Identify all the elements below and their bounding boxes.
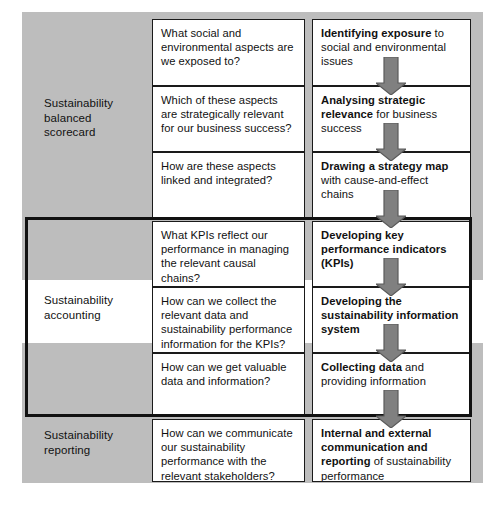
diagram-canvas: Sustainability balanced scorecard Sustai… <box>0 0 500 510</box>
row-label-line: scorecard <box>44 125 154 140</box>
row-label-line: accounting <box>44 308 154 323</box>
row-label-sustainability-reporting: Sustainability reporting <box>44 428 154 457</box>
row-label-sustainability-balanced-scorecard: Sustainability balanced scorecard <box>44 96 154 140</box>
answer-lead-text: Collecting data <box>321 361 402 373</box>
flow-arrow-down-icon <box>376 324 406 362</box>
answer-lead-text: Identifying exposure <box>321 27 431 39</box>
question-box-1: What social and environmental aspects ar… <box>152 19 305 86</box>
question-text: What social and environmental aspects ar… <box>161 27 293 67</box>
row-label-line: Sustainability <box>44 96 154 111</box>
question-box-5: How can we collect the relevant data and… <box>152 287 305 353</box>
question-text: What KPIs reflect our performance in man… <box>161 229 289 284</box>
question-box-2: Which of these aspects are strategically… <box>152 86 305 152</box>
question-text: How can we communicate our sustainabilit… <box>161 427 293 482</box>
flow-arrow-down-icon <box>376 390 406 428</box>
row-label-line: Sustainability <box>44 293 154 308</box>
question-box-6: How can we get valuable data and informa… <box>152 353 305 416</box>
question-text: Which of these aspects are strategically… <box>161 94 292 134</box>
row-label-sustainability-accounting: Sustainability accounting <box>44 293 154 322</box>
question-box-3: How are these aspects linked and integra… <box>152 152 305 218</box>
answer-rest-text: with cause-and-effect chains <box>321 174 428 200</box>
question-box-7: How can we communicate our sustainabilit… <box>152 419 305 482</box>
row-label-line: balanced <box>44 111 154 126</box>
flow-arrow-down-icon <box>376 258 406 296</box>
answer-box-7: Internal and external communication and … <box>312 419 471 482</box>
answer-lead-text: Drawing a strategy map <box>321 160 448 172</box>
question-text: How are these aspects linked and integra… <box>161 160 276 186</box>
flow-arrow-down-icon <box>376 190 406 228</box>
question-text: How can we get valuable data and informa… <box>161 361 287 387</box>
flow-arrow-down-icon <box>376 57 406 95</box>
row-label-line: reporting <box>44 443 154 458</box>
question-box-4: What KPIs reflect our performance in man… <box>152 221 305 287</box>
question-text: How can we collect the relevant data and… <box>161 295 292 350</box>
flow-arrow-down-icon <box>376 123 406 161</box>
row-label-line: Sustainability <box>44 428 154 443</box>
